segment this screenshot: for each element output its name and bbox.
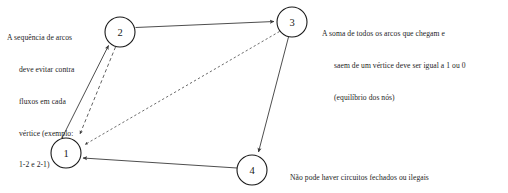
node-4[interactable]: 4 [237, 155, 267, 185]
contraflow-note: A sequência de arcos deve evitar contra … [7, 12, 74, 192]
node-balance-note-line-1: A soma de todos os arcos que chegam e [322, 29, 466, 40]
node-balance-note: A soma de todos os arcos que chegam e sa… [322, 8, 466, 125]
contraflow-note-line-1: A sequência de arcos [7, 33, 74, 44]
closed-circuits-note-line-1: Não pode haver circuitos fechados ou ile… [290, 173, 429, 184]
node-4-label: 4 [249, 165, 255, 176]
contraflow-note-line-3: fluxos em cada [7, 97, 74, 108]
node-2[interactable]: 2 [105, 17, 135, 47]
contraflow-note-line-5: 1-2 e 2-1) [7, 160, 74, 171]
edge-3-to-4 [259, 37, 289, 152]
node-3[interactable]: 3 [277, 7, 307, 37]
edge-3-to-1 [85, 32, 280, 145]
closed-circuits-note: Não pode haver circuitos fechados ou ile… [290, 152, 429, 193]
edge-2-to-3 [136, 22, 275, 28]
node-3-label: 3 [289, 17, 294, 28]
diagram-canvas: 1 2 3 4 A sequência de arcos deve evitar… [0, 0, 508, 193]
edge-4-to-1 [83, 158, 237, 168]
contraflow-note-line-4: vértice (exemplo: [7, 129, 74, 140]
edge-2-to-1 [80, 47, 116, 134]
node-balance-note-line-3: (equilíbrio dos nós) [322, 93, 466, 104]
node-balance-note-line-2: saem de um vértice deve ser igual a 1 ou… [322, 61, 466, 72]
contraflow-note-line-2: deve evitar contra [7, 65, 74, 76]
node-2-label: 2 [117, 27, 122, 38]
